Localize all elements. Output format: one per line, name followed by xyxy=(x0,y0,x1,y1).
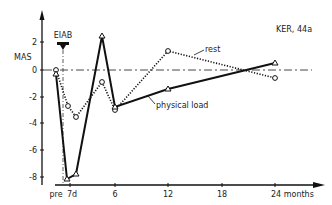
subject-label: KER, 44a xyxy=(276,25,312,34)
x-tick-label: 6 xyxy=(112,190,117,199)
y-tick-label: -6 xyxy=(29,146,37,155)
x-tick-label: 12 xyxy=(163,190,173,199)
x-tick-label: pre xyxy=(49,190,62,199)
x-tick-label: 24 months xyxy=(271,190,314,199)
y-axis-label: MAS xyxy=(14,53,31,62)
y-tick-label: -4 xyxy=(29,119,37,128)
x-tick-label: 7d xyxy=(67,190,77,199)
y-tick-label: 2 xyxy=(32,38,37,47)
series-label-rest: rest xyxy=(205,45,220,54)
y-tick-label: -2 xyxy=(29,93,37,102)
y-axis-arrow-icon xyxy=(40,10,45,20)
event-arrow-icon xyxy=(57,42,69,50)
event-label: EIAB xyxy=(54,31,72,40)
line-chart: 2 0 -2 -4 -6 -8 MAS pre 7d 6 12 18 24 mo… xyxy=(0,0,332,205)
physical-load-leader-line xyxy=(148,96,155,104)
x-tick-label: 18 xyxy=(217,190,227,199)
y-tick-label: -8 xyxy=(29,173,37,182)
x-axis-arrow-icon xyxy=(313,182,325,188)
series-label-physical-load: physical load xyxy=(156,101,208,110)
rest-leader-line xyxy=(194,50,204,55)
y-tick-label: 0 xyxy=(32,66,37,75)
